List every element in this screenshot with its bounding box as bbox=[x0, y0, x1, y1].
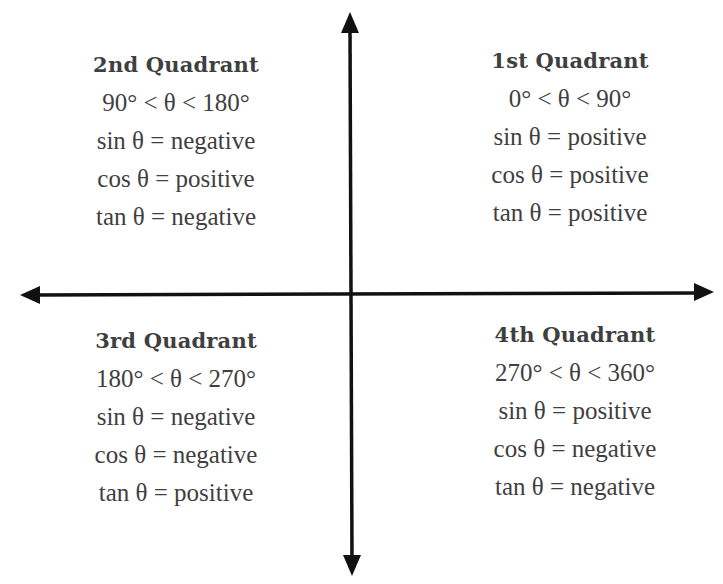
tan-sign: tan θ = negative bbox=[46, 198, 306, 236]
cos-sign: cos θ = negative bbox=[445, 430, 705, 468]
angle-range: 0° < θ < 90° bbox=[440, 80, 700, 118]
arrow-right-icon bbox=[694, 283, 714, 301]
sin-sign: sin θ = positive bbox=[440, 118, 700, 156]
quadrant-1: 1st Quadrant 0° < θ < 90° sin θ = positi… bbox=[440, 42, 700, 232]
quadrant-title: 3rd Quadrant bbox=[46, 322, 306, 360]
angle-range: 180° < θ < 270° bbox=[46, 360, 306, 398]
arrow-down-icon bbox=[343, 555, 361, 576]
quadrant-title: 2nd Quadrant bbox=[46, 46, 306, 84]
tan-sign: tan θ = positive bbox=[440, 194, 700, 232]
quadrant-title: 1st Quadrant bbox=[440, 42, 700, 80]
quadrant-4: 4th Quadrant 270° < θ < 360° sin θ = pos… bbox=[445, 316, 705, 506]
arrow-up-icon bbox=[341, 12, 359, 33]
quadrant-title: 4th Quadrant bbox=[445, 316, 705, 354]
tan-sign: tan θ = positive bbox=[46, 474, 306, 512]
sin-sign: sin θ = positive bbox=[445, 392, 705, 430]
arrow-left-icon bbox=[20, 286, 40, 304]
cos-sign: cos θ = positive bbox=[46, 160, 306, 198]
angle-range: 270° < θ < 360° bbox=[445, 354, 705, 392]
sin-sign: sin θ = negative bbox=[46, 398, 306, 436]
tan-sign: tan θ = negative bbox=[445, 468, 705, 506]
quadrant-2: 2nd Quadrant 90° < θ < 180° sin θ = nega… bbox=[46, 46, 306, 236]
quadrant-3: 3rd Quadrant 180° < θ < 270° sin θ = neg… bbox=[46, 322, 306, 512]
angle-range: 90° < θ < 180° bbox=[46, 84, 306, 122]
sin-sign: sin θ = negative bbox=[46, 122, 306, 160]
cos-sign: cos θ = positive bbox=[440, 156, 700, 194]
x-axis bbox=[20, 283, 714, 304]
cos-sign: cos θ = negative bbox=[46, 436, 306, 474]
